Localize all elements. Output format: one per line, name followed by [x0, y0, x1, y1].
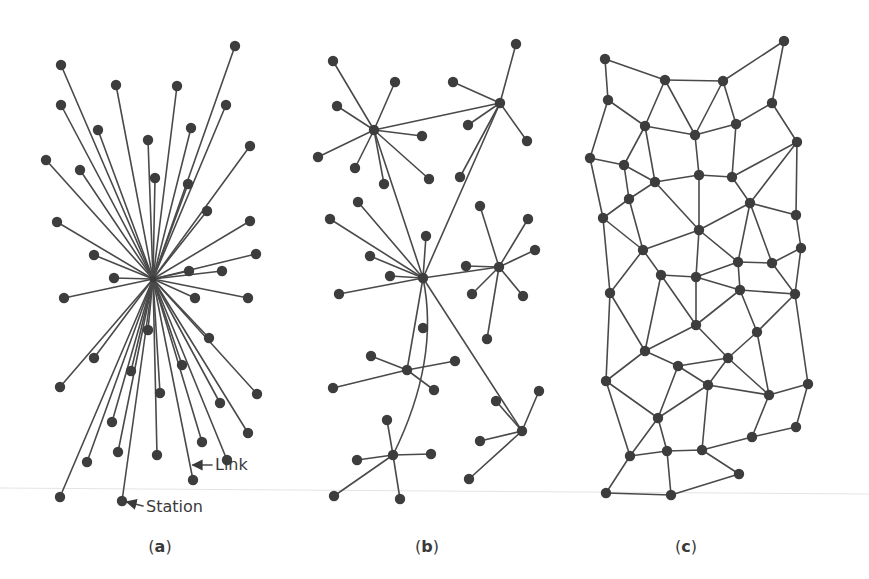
station-node [694, 170, 704, 180]
leaf-link [374, 82, 395, 130]
station-node [723, 353, 733, 363]
station-node [204, 333, 214, 343]
station-node [767, 258, 777, 268]
station-node [522, 136, 532, 146]
leaf-link [480, 206, 499, 267]
mesh-link [630, 418, 658, 456]
station-node [251, 249, 261, 259]
station-node [56, 60, 66, 70]
mesh-link [606, 381, 658, 418]
mesh-link [655, 182, 699, 230]
link [153, 221, 250, 279]
station-node [143, 325, 153, 335]
station-node [694, 225, 704, 235]
mesh-link [655, 175, 699, 182]
station-node [82, 457, 92, 467]
hub-station [388, 450, 398, 460]
station-node [482, 334, 492, 344]
station-node [745, 198, 755, 208]
mesh-link [645, 80, 665, 126]
mesh-link [795, 248, 801, 294]
mesh-link [643, 230, 699, 250]
station-node [448, 77, 458, 87]
station-node [624, 194, 634, 204]
mesh-link [796, 142, 797, 215]
hub-station [369, 125, 379, 135]
station-node [117, 496, 127, 506]
station-node [735, 285, 745, 295]
station-node [424, 174, 434, 184]
station-node [475, 201, 485, 211]
station-node [421, 231, 431, 241]
station-node [638, 245, 648, 255]
mesh-link [772, 103, 797, 142]
link [112, 279, 153, 422]
station-node [126, 366, 136, 376]
link [122, 279, 153, 501]
mesh-link [590, 158, 603, 218]
mesh-link [696, 277, 740, 290]
station-node [491, 396, 501, 406]
station-node [365, 251, 375, 261]
mesh-link [702, 385, 708, 450]
hub-station [495, 98, 505, 108]
mesh-link [740, 290, 757, 332]
station-node [603, 95, 613, 105]
station-node [426, 449, 436, 459]
leaf-link [374, 130, 422, 136]
network-topology-figure: Link Station (a) (b) (c) [0, 0, 869, 579]
station-node [143, 135, 153, 145]
station-node [155, 388, 165, 398]
mesh-link [658, 366, 678, 418]
mesh-link [757, 294, 795, 332]
station-node [41, 155, 51, 165]
leaf-link [358, 202, 423, 278]
link [60, 279, 153, 497]
mesh-link [795, 294, 808, 384]
station-node [190, 293, 200, 303]
station-node [221, 100, 231, 110]
mesh-link [603, 218, 610, 293]
mesh-link [750, 142, 797, 203]
station-node [172, 81, 182, 91]
station-node [353, 197, 363, 207]
station-node [202, 206, 212, 216]
mesh-link [645, 126, 655, 182]
panel-captions: (a) (b) (c) [148, 537, 697, 556]
panel-a-centralized: Link Station [41, 41, 262, 516]
station-node [385, 271, 395, 281]
panel-c-links [590, 41, 808, 495]
station-node [75, 165, 85, 175]
mesh-link [696, 262, 738, 277]
station-node [332, 101, 342, 111]
mesh-link [606, 456, 630, 493]
station-node [113, 447, 123, 457]
mesh-link [750, 203, 772, 263]
leaf-link [453, 82, 500, 103]
station-node [379, 179, 389, 189]
station-node [673, 361, 683, 371]
station-node [197, 437, 207, 447]
mesh-link [605, 59, 665, 80]
link [98, 130, 153, 279]
station-node [764, 390, 774, 400]
caption-b: (b) [415, 537, 439, 556]
mesh-link [772, 41, 784, 103]
mesh-link [645, 325, 696, 351]
leaf-link [333, 370, 407, 388]
station-node [640, 346, 650, 356]
station-node [600, 54, 610, 64]
caption-a: (a) [148, 537, 171, 556]
station-node [382, 415, 392, 425]
station-node [601, 488, 611, 498]
leaf-link [355, 130, 374, 168]
mesh-link [736, 103, 772, 124]
mesh-link [667, 451, 671, 495]
mesh-link [667, 450, 702, 451]
mesh-link [696, 325, 728, 358]
station-node [475, 436, 485, 446]
mesh-link [606, 381, 630, 456]
mesh-link [732, 142, 797, 177]
mesh-link [752, 395, 769, 437]
station-node [188, 475, 198, 485]
